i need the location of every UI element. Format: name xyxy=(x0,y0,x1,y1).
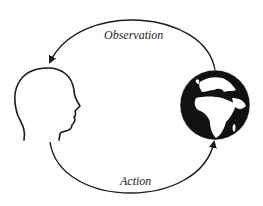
observation-label: Observation xyxy=(104,28,163,43)
earth-globe-icon xyxy=(180,70,250,140)
action-label: Action xyxy=(120,174,151,189)
agent-environment-diagram: Observation Action xyxy=(0,0,263,206)
human-head-profile-icon xyxy=(15,68,80,140)
